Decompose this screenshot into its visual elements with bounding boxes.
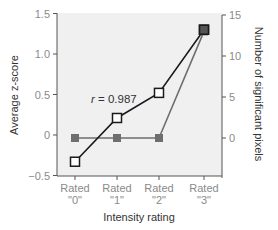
- filled-square-marker: [156, 135, 163, 142]
- y-tick-label: 0.5: [35, 89, 50, 101]
- left-axis: −0.500.51.01.5: [28, 8, 57, 182]
- y2-axis-title: Number of significant pixels: [253, 27, 265, 162]
- x-tick-label: Rated: [189, 182, 218, 194]
- x-axis: Rated"0"Rated"1"Rated"2"Rated"3": [57, 176, 222, 206]
- x-tick-label-value: "2": [152, 194, 166, 206]
- annotation-layer: r = 0.987: [91, 93, 137, 105]
- x-axis-title: Intensity rating: [103, 211, 175, 223]
- right-axis: 051015: [222, 9, 241, 178]
- open-square-marker: [155, 88, 164, 97]
- y-tick-label: 1.0: [35, 48, 50, 60]
- y-axis-title: Average z-score: [8, 55, 20, 135]
- correlation-annotation: r = 0.987: [91, 93, 137, 105]
- filled-square-marker: [72, 135, 79, 142]
- y2-tick-label: 5: [229, 91, 235, 103]
- y2-tick-label: 10: [229, 50, 241, 62]
- x-tick-label: Rated: [102, 182, 131, 194]
- filled-square-marker: [114, 135, 121, 142]
- x-tick-label: Rated: [144, 182, 173, 194]
- y-tick-label: −0.5: [28, 170, 50, 182]
- open-square-marker: [71, 157, 80, 166]
- chart: −0.500.51.01.5 051015 Rated"0"Rated"1"Ra…: [0, 0, 278, 230]
- y2-tick-label: 0: [229, 132, 235, 144]
- x-tick-label-value: "1": [110, 194, 124, 206]
- plot-area: [57, 13, 222, 176]
- open-square-marker: [113, 113, 122, 122]
- y-tick-label: 0: [44, 129, 50, 141]
- x-tick-label-value: "3": [197, 194, 211, 206]
- x-tick-label: Rated: [60, 182, 89, 194]
- y2-tick-label: 15: [229, 9, 241, 21]
- overlap-square-marker: [200, 25, 209, 34]
- y-tick-label: 1.5: [35, 8, 50, 20]
- x-tick-label-value: "0": [68, 194, 82, 206]
